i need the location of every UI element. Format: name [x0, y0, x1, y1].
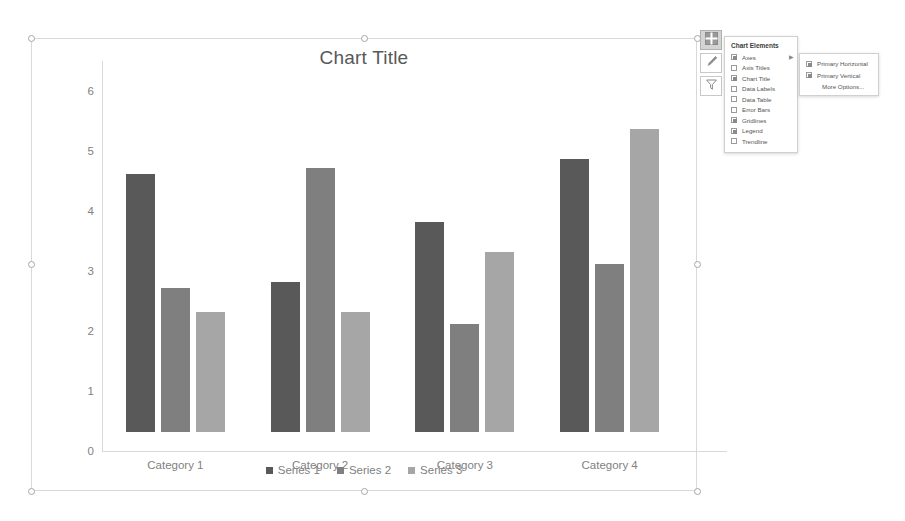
- y-axis-tick-label: 5: [62, 145, 94, 157]
- more-options-item[interactable]: More Options...: [800, 81, 878, 91]
- bar-series-1[interactable]: [126, 174, 155, 432]
- plus-grid-icon: [705, 31, 718, 49]
- screen: Chart Title 0123456 Category 1Category 2…: [0, 0, 905, 521]
- selection-handle-bottom-center[interactable]: [361, 488, 368, 495]
- legend-label: Series 3: [420, 464, 462, 476]
- menu-item-data-labels[interactable]: Data Labels: [725, 84, 797, 95]
- legend-item[interactable]: Series 1: [266, 464, 320, 476]
- menu-item-label: Legend: [742, 127, 763, 134]
- menu-item-chart-title[interactable]: Chart Title: [725, 73, 797, 84]
- menu-item-label: Data Table: [742, 96, 771, 103]
- plot-area[interactable]: 0123456 Category 1Category 2Category 3Ca…: [62, 59, 692, 432]
- chart-elements-header: Chart Elements: [725, 41, 797, 52]
- menu-item-label: Axis Titles: [742, 64, 770, 71]
- chart-styles-button[interactable]: [700, 53, 722, 73]
- chart-quick-buttons: [700, 30, 722, 96]
- bar-series-3[interactable]: [341, 312, 370, 432]
- selection-handle-top-center[interactable]: [361, 35, 368, 42]
- menu-item-label: Gridlines: [742, 117, 766, 124]
- bar-series-1[interactable]: [415, 222, 444, 432]
- submenu-item-primary-horizontal[interactable]: Primary Horizontal: [800, 58, 878, 70]
- y-axis-tick-label: 1: [62, 385, 94, 397]
- selection-handle-middle-left[interactable]: [28, 261, 35, 268]
- legend-label: Series 2: [349, 464, 391, 476]
- checkbox-unchecked-icon[interactable]: [731, 65, 737, 71]
- checkbox-checked-icon[interactable]: [806, 61, 812, 67]
- bar-group: [537, 40, 682, 432]
- chart-object[interactable]: Chart Title 0123456 Category 1Category 2…: [31, 38, 697, 491]
- bar-series-3[interactable]: [485, 252, 514, 432]
- selection-handle-top-left[interactable]: [28, 35, 35, 42]
- checkbox-unchecked-icon[interactable]: [731, 107, 737, 113]
- menu-item-data-table[interactable]: Data Table: [725, 94, 797, 105]
- y-axis-tick-label: 2: [62, 325, 94, 337]
- selection-handle-bottom-left[interactable]: [28, 488, 35, 495]
- menu-item-trendline[interactable]: Trendline: [725, 136, 797, 147]
- bar-group: [393, 40, 538, 432]
- bar-series-2[interactable]: [161, 288, 190, 432]
- bar-series-2[interactable]: [595, 264, 624, 432]
- checkbox-checked-icon[interactable]: [731, 117, 737, 123]
- chart-legend[interactable]: Series 1Series 2Series 3: [32, 464, 696, 476]
- legend-swatch-icon: [266, 467, 273, 474]
- bar-group: [103, 40, 248, 432]
- axes-submenu[interactable]: Primary HorizontalPrimary Vertical More …: [799, 53, 879, 96]
- y-axis-tick-label: 6: [62, 85, 94, 97]
- checkbox-checked-icon[interactable]: [731, 128, 737, 134]
- bar-series-2[interactable]: [306, 168, 335, 432]
- bar-series-1[interactable]: [271, 282, 300, 432]
- legend-swatch-icon: [408, 467, 415, 474]
- checkbox-unchecked-icon[interactable]: [731, 96, 737, 102]
- y-axis-tick-label: 0: [62, 445, 94, 457]
- chart-elements-button[interactable]: [700, 30, 722, 50]
- bar-series-2[interactable]: [450, 324, 479, 432]
- bar-group: [248, 40, 393, 432]
- chart-elements-panel[interactable]: Chart Elements Axes▶Axis TitlesChart Tit…: [724, 36, 798, 153]
- legend-swatch-icon: [337, 467, 344, 474]
- legend-item[interactable]: Series 2: [337, 464, 391, 476]
- chart-filters-button[interactable]: [700, 76, 722, 96]
- checkbox-unchecked-icon[interactable]: [731, 138, 737, 144]
- y-axis-tick-label: 4: [62, 205, 94, 217]
- menu-item-label: Axes: [742, 54, 756, 61]
- y-axis-tick-label: 3: [62, 265, 94, 277]
- menu-item-label: Primary Vertical: [817, 72, 860, 79]
- checkbox-unchecked-icon[interactable]: [731, 86, 737, 92]
- chevron-right-icon: ▶: [789, 54, 794, 60]
- menu-item-label: Data Labels: [742, 85, 775, 92]
- menu-item-legend[interactable]: Legend: [725, 126, 797, 137]
- menu-item-axes[interactable]: Axes▶: [725, 52, 797, 63]
- checkbox-checked-icon[interactable]: [731, 75, 737, 81]
- menu-item-gridlines[interactable]: Gridlines: [725, 115, 797, 126]
- legend-item[interactable]: Series 3: [408, 464, 462, 476]
- paintbrush-icon: [705, 54, 718, 72]
- checkbox-checked-icon[interactable]: [806, 72, 812, 78]
- bar-series-3[interactable]: [630, 129, 659, 432]
- selection-handle-middle-right[interactable]: [694, 261, 701, 268]
- menu-item-label: Primary Horizontal: [817, 60, 868, 67]
- menu-item-label: Chart Title: [742, 75, 770, 82]
- menu-item-axis-titles[interactable]: Axis Titles: [725, 63, 797, 74]
- checkbox-checked-icon[interactable]: [731, 54, 737, 60]
- legend-label: Series 1: [278, 464, 320, 476]
- horizontal-axis-line: [102, 451, 727, 452]
- menu-item-error-bars[interactable]: Error Bars: [725, 105, 797, 116]
- menu-item-label: Error Bars: [742, 106, 770, 113]
- bar-series-3[interactable]: [196, 312, 225, 432]
- submenu-item-primary-vertical[interactable]: Primary Vertical: [800, 70, 878, 82]
- selection-handle-bottom-right[interactable]: [694, 488, 701, 495]
- funnel-icon: [705, 77, 718, 95]
- bar-series-1[interactable]: [560, 159, 589, 432]
- menu-item-label: Trendline: [742, 138, 768, 145]
